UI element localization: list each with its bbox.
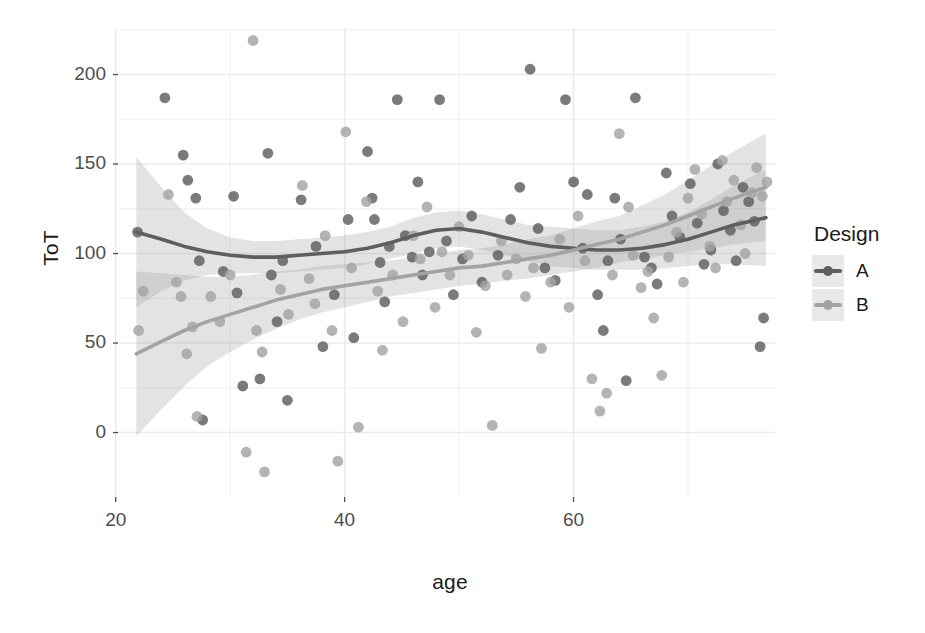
legend-label-b: B [856,294,869,316]
chart-container: ToT age 050100150200204060 Design A B [0,0,925,633]
y-tick-label: 100 [46,242,106,264]
legend-key-b [812,289,844,321]
x-tick-label: 20 [86,509,146,531]
x-tick-label: 40 [315,509,375,531]
y-tick-label: 150 [46,152,106,174]
y-tick-label: 0 [46,421,106,443]
legend-item-a[interactable]: A [812,255,922,287]
y-tick-label: 200 [46,63,106,85]
legend-title: Design [814,222,922,246]
x-tick-label: 60 [544,509,604,531]
legend-item-b[interactable]: B [812,289,922,321]
scatter-plot-svg [0,0,925,633]
legend-label-a: A [856,260,869,282]
legend-key-a [812,255,844,287]
legend-point-b [823,300,833,310]
x-axis-title: age [360,570,540,594]
y-tick-label: 50 [46,331,106,353]
legend-point-a [823,266,833,276]
legend: Design A B [812,222,922,323]
